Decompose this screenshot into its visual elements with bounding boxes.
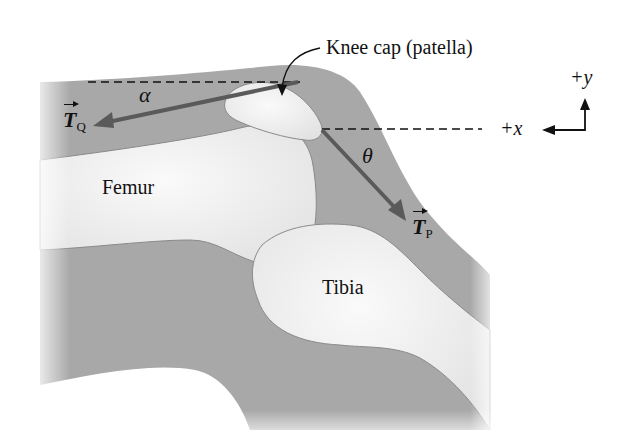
tq-symbol: T xyxy=(63,107,76,133)
tp-symbol: T xyxy=(412,214,425,240)
tq-vector-label: TQ xyxy=(63,107,86,135)
angle-theta-label: θ xyxy=(362,143,373,169)
tp-vector-label: TP xyxy=(412,214,433,242)
tq-subscript: Q xyxy=(76,119,85,134)
plus-y-label: +y xyxy=(570,66,592,89)
angle-alpha-label: α xyxy=(139,82,151,108)
coordinate-axes xyxy=(542,98,590,135)
plus-x-label: +x xyxy=(500,117,522,140)
knee-diagram: Knee cap (patella) Femur Tibia α θ TQ TP… xyxy=(0,0,635,443)
tp-subscript: P xyxy=(425,226,432,241)
knee-illustration xyxy=(0,0,635,443)
patella-label: Knee cap (patella) xyxy=(326,36,473,59)
femur-label: Femur xyxy=(102,176,154,199)
tibia-label: Tibia xyxy=(322,276,364,299)
